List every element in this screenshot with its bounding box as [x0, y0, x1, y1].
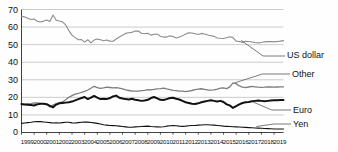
series-lines: [22, 15, 284, 129]
currency-composition-chart: 70 60 50 40 30 20 10 0 19992000200120022…: [0, 0, 338, 152]
gridlines: [22, 10, 284, 115]
label-leader-lines: [235, 40, 291, 126]
series-label-euro: Euro: [293, 106, 312, 115]
x-axis-tick-2019: 2019: [268, 138, 292, 145]
plot-area: [0, 0, 338, 152]
series-label-us-dollar: US dollar: [287, 51, 324, 60]
series-label-yen: Yen: [293, 120, 308, 129]
x-axis-ticks: [22, 133, 275, 135]
axis-lines: [22, 10, 284, 133]
series-label-other: Other: [292, 70, 315, 79]
